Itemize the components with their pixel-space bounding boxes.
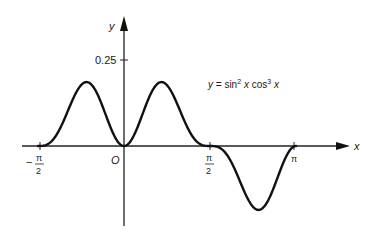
chart-canvas: x y 0.25 O − π 2 π 2 π y = sin2 x cos3 x: [0, 0, 379, 237]
origin-label: O: [111, 154, 120, 166]
svg-text:2: 2: [206, 166, 211, 176]
x-axis-arrow-icon: [336, 142, 350, 150]
svg-text:π: π: [206, 153, 212, 163]
x-axis-label: x: [353, 140, 360, 152]
x-tick-label-pi: π: [291, 154, 297, 164]
svg-text:−: −: [26, 156, 32, 168]
y-axis-arrow-icon: [120, 16, 128, 31]
svg-text:2: 2: [36, 166, 41, 176]
equation-label: y = sin2 x cos3 x: [207, 78, 280, 90]
x-tick-label-pi-over-2: π 2: [205, 153, 214, 176]
y-axis-label: y: [108, 20, 116, 32]
x-tick-label-neg-pi-over-2: − π 2: [26, 153, 44, 176]
y-tick-label: 0.25: [95, 54, 116, 66]
svg-text:π: π: [36, 153, 42, 163]
